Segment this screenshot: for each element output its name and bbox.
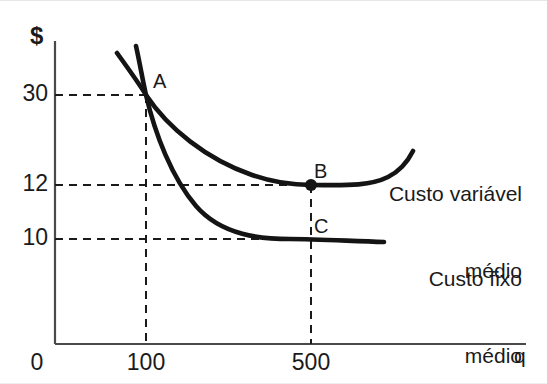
x-tick-label-0: 0 (7, 350, 67, 375)
y-axis-unit-label: $ (30, 23, 43, 49)
curve-label-custo-fixo-medio: Custo fixo médio (360, 215, 522, 384)
chart-figure: $ 30 12 10 0 100 500 q A B C Custo variá… (0, 0, 547, 384)
y-tick-label-30: 30 (2, 81, 48, 106)
x-tick-label-500: 500 (281, 350, 341, 375)
y-tick-label-10: 10 (2, 225, 48, 250)
point-label-a: A (153, 71, 166, 93)
point-label-b: B (314, 161, 327, 183)
x-tick-label-100: 100 (116, 350, 176, 375)
y-tick-label-12: 12 (2, 171, 48, 196)
curve-custo-fixo-medio (136, 46, 384, 242)
curve-label-custo-fixo-medio-line1: Custo fixo (360, 266, 522, 292)
point-label-c: C (314, 216, 328, 238)
curve-label-custo-fixo-medio-line2: médio (360, 343, 522, 369)
curve-label-custo-variavel-medio-line1: Custo variável (360, 181, 522, 207)
